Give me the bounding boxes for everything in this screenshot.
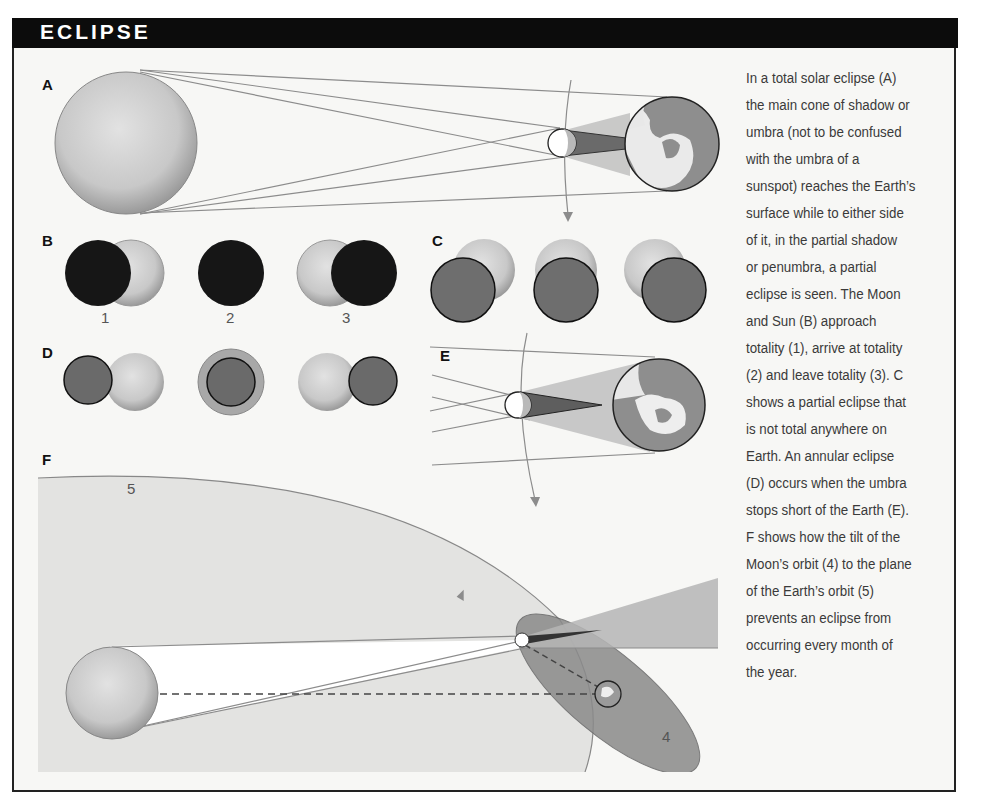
panel-label-c: C <box>432 232 443 249</box>
caption-line: prevents an eclipse from <box>746 604 951 631</box>
panel-e <box>430 333 705 507</box>
panel-label-d: D <box>42 344 53 361</box>
earth <box>612 359 705 451</box>
moon <box>207 358 255 406</box>
panel-label-a: A <box>42 76 53 93</box>
caption-text: In a total solar eclipse (A) the main co… <box>746 64 951 685</box>
panel-a <box>55 70 719 222</box>
caption-line: of it, in the partial shadow <box>746 226 951 253</box>
stage-number-2: 2 <box>226 309 234 326</box>
panel-f <box>38 476 722 798</box>
caption-line: occurring every month of <box>746 631 951 658</box>
stage-number-3: 3 <box>342 309 350 326</box>
earth-orbit-label: 5 <box>127 480 135 497</box>
caption-line: Moon’s orbit (4) to the plane <box>746 550 951 577</box>
caption-line: surface while to either side <box>746 199 951 226</box>
panel-d <box>64 349 397 415</box>
caption-line: F shows how the tilt of the <box>746 523 951 550</box>
panel-label-b: B <box>42 232 53 249</box>
caption-line: the year. <box>746 658 951 685</box>
sun <box>55 72 197 214</box>
caption-line: is not total anywhere on <box>746 415 951 442</box>
moon <box>642 258 706 322</box>
moon <box>515 633 529 647</box>
panel-b <box>65 240 397 306</box>
panel-label-f: F <box>42 451 51 468</box>
panel-c <box>431 239 706 322</box>
caption-line: of the Earth’s orbit (5) <box>746 577 951 604</box>
caption-line: sunspot) reaches the Earth’s <box>746 172 951 199</box>
caption-line: the main cone of shadow or <box>746 91 951 118</box>
moon <box>64 356 112 404</box>
sun <box>66 647 158 739</box>
caption-line: shows a partial eclipse that <box>746 388 951 415</box>
caption-line: umbra (not to be confused <box>746 118 951 145</box>
sun <box>106 353 164 411</box>
moon <box>534 258 598 322</box>
earth <box>595 681 621 707</box>
panel-label-e: E <box>440 347 450 364</box>
caption-line: and Sun (B) approach <box>746 307 951 334</box>
sun <box>298 353 356 411</box>
caption-line: (2) and leave totality (3). C <box>746 361 951 388</box>
moon <box>331 240 397 306</box>
moon <box>198 240 264 306</box>
moon <box>349 357 397 405</box>
caption-line: or penumbra, a partial <box>746 253 951 280</box>
moon <box>431 258 495 322</box>
caption-line: totality (1), arrive at totality <box>746 334 951 361</box>
stage-number-1: 1 <box>101 309 109 326</box>
caption-line: (D) occurs when the umbra <box>746 469 951 496</box>
moon <box>65 240 131 306</box>
caption-line: Earth. An annular eclipse <box>746 442 951 469</box>
caption-line: In a total solar eclipse (A) <box>746 64 951 91</box>
arrow-icon <box>530 497 540 507</box>
moon-orbit-label: 4 <box>662 728 670 745</box>
arrow-icon <box>563 212 573 222</box>
caption-line: with the umbra of a <box>746 145 951 172</box>
caption-line: eclipse is seen. The Moon <box>746 280 951 307</box>
caption-line: stops short of the Earth (E). <box>746 496 951 523</box>
earth <box>625 97 719 191</box>
